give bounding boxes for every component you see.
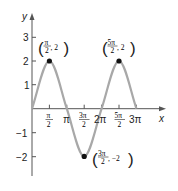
y-tick-1: 1	[24, 80, 30, 91]
svg-text:): )	[128, 150, 134, 169]
point-label-pi-over-2: ( π 2 , 2 )	[38, 38, 69, 59]
x-tick-pi-over-2: π 2	[46, 111, 54, 129]
y-axis-arrow-icon	[30, 13, 35, 20]
x-ticks	[49, 105, 136, 109]
svg-text:): )	[130, 39, 136, 58]
point-label-3pi-over-2: ( 3π 2 , −2 )	[92, 149, 134, 170]
svg-text:): )	[64, 39, 70, 58]
svg-text:, 2: , 2	[51, 43, 59, 52]
svg-text:2: 2	[47, 120, 51, 129]
max-point-2	[116, 58, 121, 63]
x-tick-pi: π	[63, 114, 70, 125]
svg-text:(: (	[38, 39, 44, 58]
svg-text:2: 2	[101, 157, 105, 166]
svg-text:2: 2	[118, 120, 122, 129]
x-tick-2pi: 2π	[94, 114, 107, 125]
x-tick-5pi-over-2: 5π 2	[115, 111, 126, 129]
max-point-1	[47, 58, 52, 63]
point-label-5pi-over-2: ( 5π 2 , 2 )	[102, 38, 136, 59]
x-axis-arrow-icon	[159, 106, 166, 111]
svg-text:2: 2	[111, 46, 115, 55]
svg-text:2: 2	[45, 46, 49, 55]
svg-text:, −2: , −2	[108, 154, 120, 163]
x-tick-3pi-over-2: 3π 2	[79, 111, 90, 129]
x-axis-label: x	[158, 113, 165, 124]
y-axis-label: y	[21, 11, 28, 22]
y-tick-neg2: −2	[16, 152, 28, 163]
y-tick-3: 3	[23, 32, 29, 43]
min-point	[82, 154, 87, 159]
y-tick-2: 2	[23, 56, 29, 67]
svg-text:, 2: , 2	[117, 43, 125, 52]
sine-graph: y x 3 2 1 −1 −2 π 2 π 3π 2 2π 5π 2 3π	[0, 0, 178, 191]
svg-text:2: 2	[82, 120, 86, 129]
x-tick-3pi: 3π	[129, 114, 142, 125]
y-tick-neg1: −1	[16, 128, 28, 139]
